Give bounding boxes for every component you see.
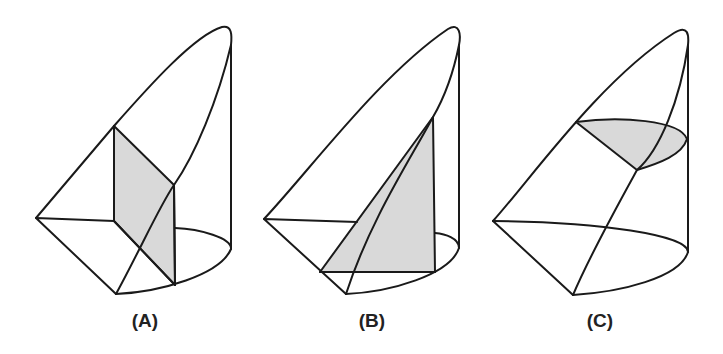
figure-c-curve (573, 45, 688, 295)
figure-a-shaded-section (114, 126, 175, 285)
figure-b-label: (B) (359, 310, 385, 331)
figure-c (493, 30, 688, 295)
figure-c-label: (C) (587, 310, 613, 331)
figure-a (36, 27, 231, 294)
diagram-canvas: (A) (B) (C) (0, 0, 723, 354)
figure-c-shaded-section (576, 119, 687, 170)
figure-b-shaded-section (320, 117, 435, 272)
figure-b (264, 27, 460, 294)
figure-a-label: (A) (132, 310, 158, 331)
figure-c-base-lines (493, 221, 573, 295)
